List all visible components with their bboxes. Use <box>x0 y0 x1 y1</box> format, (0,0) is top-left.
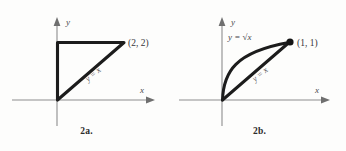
point-label-2a: (2, 2) <box>128 38 149 49</box>
caption-2a: 2a. <box>0 126 173 136</box>
x-axis-label-2b: x <box>314 85 319 95</box>
equation-label-y-equals-x-2a: y = x <box>82 64 103 84</box>
figure-sheet: y x (2, 2) y = x 2a. y x <box>0 0 346 151</box>
x-axis-label-2a: x <box>139 85 144 95</box>
plot-2b: y x (1, 1) y = √x y = x <box>173 0 346 133</box>
figure-panel-2a: y x (2, 2) y = x 2a. <box>0 0 173 151</box>
y-axis-arrowhead-2a <box>54 17 61 26</box>
plot-2a: y x (2, 2) y = x <box>0 0 173 133</box>
x-axis-arrowhead-2b <box>321 97 330 104</box>
y-axis-label-2a: y <box>65 17 70 27</box>
equation-label-y-equals-sqrt-x-2b: y = √x <box>227 32 252 42</box>
y-axis-label-2b: y <box>230 17 235 27</box>
endpoint-dot-2b <box>286 38 293 45</box>
y-axis-arrowhead-2b <box>219 17 226 26</box>
x-axis-arrowhead-2a <box>146 97 155 104</box>
equation-label-y-equals-x-2b: y = x <box>249 64 270 84</box>
figure-panel-2b: y x (1, 1) y = √x y = x 2b. <box>173 0 346 151</box>
caption-2b: 2b. <box>173 126 346 136</box>
point-label-2b: (1, 1) <box>297 38 318 49</box>
